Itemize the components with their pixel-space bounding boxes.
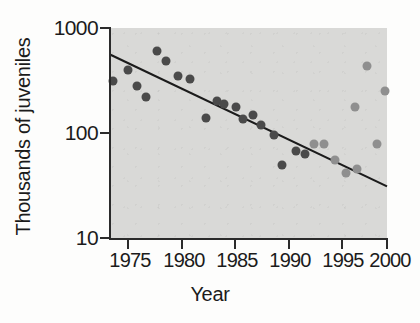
data-point — [341, 168, 350, 177]
y-axis-title: Thousands of juveniles — [12, 37, 35, 237]
x-tick-label-1995: 1995 — [322, 249, 363, 272]
data-point — [278, 160, 287, 169]
data-point — [152, 47, 161, 56]
y-axis-line — [109, 27, 111, 239]
data-point — [291, 146, 300, 155]
y-tick-100 — [100, 132, 109, 134]
x-tick-label-1985: 1985 — [216, 249, 257, 272]
data-point — [269, 131, 278, 140]
x-tick-1980 — [181, 240, 183, 249]
x-tick-label-1975: 1975 — [109, 249, 150, 272]
data-point — [220, 99, 229, 108]
data-point — [380, 87, 389, 96]
regression-line — [110, 28, 387, 238]
x-axis-title: Year — [0, 283, 420, 306]
data-point — [238, 115, 247, 124]
x-tick-label-1980: 1980 — [163, 249, 204, 272]
x-tick-2000 — [386, 240, 388, 249]
data-point — [319, 140, 328, 149]
x-axis-line — [109, 238, 388, 240]
data-point — [249, 110, 258, 119]
x-tick-label-1990: 1990 — [269, 249, 310, 272]
data-point — [202, 113, 211, 122]
data-point — [350, 103, 359, 112]
data-point — [132, 82, 141, 91]
data-point — [162, 57, 171, 66]
y-tick-1000 — [100, 27, 109, 29]
chart-figure: 1000 100 10 1975 1980 1985 1990 1995 200… — [0, 0, 420, 323]
x-tick-label-2000: 2000 — [369, 249, 410, 272]
data-point — [310, 140, 319, 149]
data-point — [363, 62, 372, 71]
data-point — [372, 140, 381, 149]
x-tick-1995 — [341, 240, 343, 249]
data-point — [123, 65, 132, 74]
data-point — [174, 71, 183, 80]
data-point — [301, 150, 310, 159]
data-point — [331, 156, 340, 165]
data-point — [352, 165, 361, 174]
data-point — [257, 121, 266, 130]
plot-area — [110, 28, 387, 238]
x-tick-1985 — [234, 240, 236, 249]
y-tick-10 — [100, 237, 109, 239]
data-point — [231, 103, 240, 112]
x-tick-1990 — [288, 240, 290, 249]
data-point — [185, 74, 194, 83]
data-point — [142, 93, 151, 102]
x-tick-1975 — [127, 240, 129, 249]
